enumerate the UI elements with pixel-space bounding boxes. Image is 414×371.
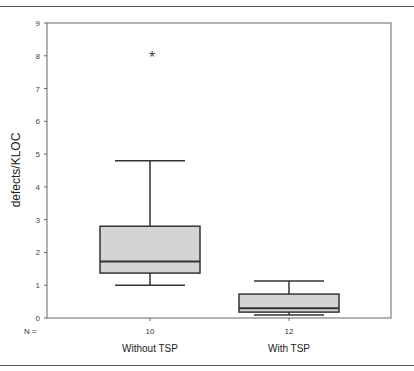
y-tick-label: 6 [36, 117, 41, 126]
y-tick-label: 9 [36, 19, 41, 28]
x-category-label: Without TSP [122, 343, 178, 354]
outlier-marker: * [149, 49, 155, 66]
y-tick-label: 0 [36, 314, 41, 323]
y-tick-label: 1 [36, 281, 41, 290]
y-tick-label: 7 [36, 85, 41, 94]
box-iqr [239, 294, 339, 312]
y-tick-label: 3 [36, 216, 41, 225]
y-axis-label: defects/KLOC [9, 132, 23, 207]
n-prefix-label: N = [24, 327, 37, 336]
plot-frame [47, 23, 391, 318]
box-plot-chart: 0123456789defects/KLOCN =*10Without TSP1… [0, 0, 414, 371]
y-tick-label: 4 [36, 183, 41, 192]
y-tick-label: 2 [36, 248, 41, 257]
n-count-label: 12 [285, 327, 294, 336]
y-tick-label: 5 [36, 150, 41, 159]
y-tick-label: 8 [36, 52, 41, 61]
x-category-label: With TSP [268, 343, 310, 354]
box-iqr [100, 226, 200, 273]
n-count-label: 10 [146, 327, 155, 336]
